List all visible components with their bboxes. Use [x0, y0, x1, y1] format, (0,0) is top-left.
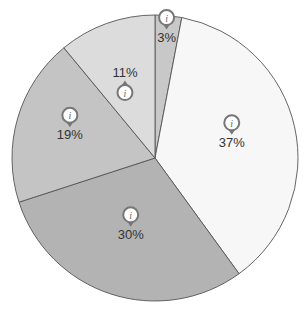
- svg-text:i: i: [165, 13, 168, 24]
- slice-percent-label: 3%: [157, 30, 176, 45]
- svg-text:i: i: [230, 118, 233, 129]
- slice-percent-label: 11%: [112, 65, 137, 80]
- slice-percent-label: 19%: [57, 127, 83, 142]
- pie-chart: i3%i37%i30%i19%i11%: [0, 0, 306, 319]
- slice-percent-label: 37%: [219, 135, 245, 150]
- slice-percent-label: 30%: [118, 227, 144, 242]
- pie-slices: [12, 15, 298, 301]
- svg-text:i: i: [124, 88, 127, 99]
- svg-text:i: i: [129, 210, 132, 221]
- svg-text:i: i: [68, 110, 71, 121]
